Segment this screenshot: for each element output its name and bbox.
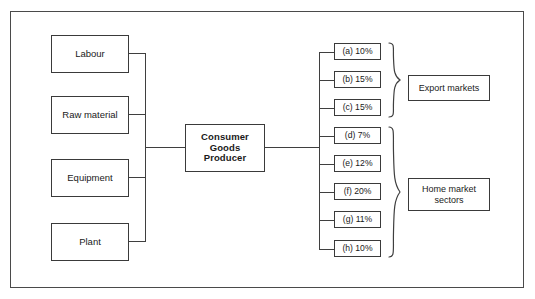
connector-sector-f-stub — [319, 192, 334, 193]
group-node-home-market-sectors[interactable]: Home market sectors — [408, 178, 490, 211]
sector-node-label: (c) 15% — [343, 103, 373, 113]
connector-center-to-right-trunk — [265, 147, 319, 148]
input-node-equipment[interactable]: Equipment — [51, 159, 129, 197]
input-node-labour[interactable]: Labour — [51, 35, 129, 73]
connector-labour-stub — [129, 53, 145, 54]
sector-node-label: (f) 20% — [344, 187, 372, 197]
sector-node-label: (e) 12% — [342, 159, 372, 169]
sector-node-label: (h) 10% — [342, 244, 372, 254]
connector-sector-h-stub — [319, 249, 334, 250]
sector-node-g[interactable]: (g) 11% — [334, 211, 381, 228]
group-node-line2: sectors — [422, 195, 476, 205]
group-node-line1: Home market — [422, 184, 476, 194]
connector-sector-e-stub — [319, 164, 334, 165]
center-node-consumer-goods-producer[interactable]: Consumer Goods Producer — [185, 124, 265, 172]
brace-home-market-sectors — [386, 126, 402, 258]
connector-left-trunk-to-center — [145, 147, 185, 148]
input-node-raw-material[interactable]: Raw material — [51, 96, 129, 134]
sector-node-d[interactable]: (d) 7% — [334, 127, 381, 144]
sector-node-label: (g) 11% — [343, 215, 372, 225]
sector-node-a[interactable]: (a) 10% — [334, 43, 381, 60]
diagram-frame: Labour Raw material Equipment Plant Cons… — [10, 11, 524, 288]
input-node-label: Equipment — [67, 173, 112, 184]
connector-equipment-stub — [129, 177, 145, 178]
diagram-canvas: Labour Raw material Equipment Plant Cons… — [0, 0, 535, 299]
input-node-label: Plant — [79, 237, 101, 248]
sector-node-c[interactable]: (c) 15% — [334, 99, 381, 116]
connector-sector-d-stub — [319, 136, 334, 137]
connector-sector-c-stub — [319, 108, 334, 109]
brace-export-markets — [386, 42, 402, 118]
group-node-export-markets[interactable]: Export markets — [408, 75, 490, 101]
sector-node-label: (d) 7% — [345, 131, 370, 141]
sector-node-label: (a) 10% — [342, 47, 372, 57]
center-node-line1: Consumer — [201, 132, 249, 143]
input-node-label: Labour — [75, 49, 105, 60]
input-node-plant[interactable]: Plant — [51, 223, 129, 261]
connector-sector-g-stub — [319, 220, 334, 221]
sector-node-label: (b) 15% — [342, 75, 372, 85]
connector-raw-material-stub — [129, 114, 145, 115]
center-node-line3: Producer — [201, 153, 249, 164]
connector-plant-stub — [129, 241, 145, 242]
input-node-label: Raw material — [62, 110, 117, 121]
sector-node-f[interactable]: (f) 20% — [334, 183, 381, 200]
connector-sector-b-stub — [319, 80, 334, 81]
sector-node-e[interactable]: (e) 12% — [334, 155, 381, 172]
connector-sector-a-stub — [319, 52, 334, 53]
group-node-line1: Export markets — [419, 83, 480, 93]
sector-node-h[interactable]: (h) 10% — [334, 240, 381, 257]
sector-node-b[interactable]: (b) 15% — [334, 71, 381, 88]
